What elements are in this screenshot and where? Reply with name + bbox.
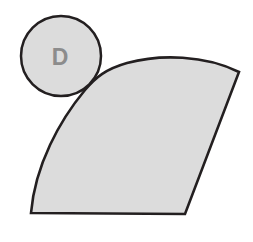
geometry-figure: HAND IND DIG D (0, 0, 253, 242)
circle-label-d: D (52, 44, 69, 70)
figure-svg: HAND IND DIG D (0, 0, 253, 242)
